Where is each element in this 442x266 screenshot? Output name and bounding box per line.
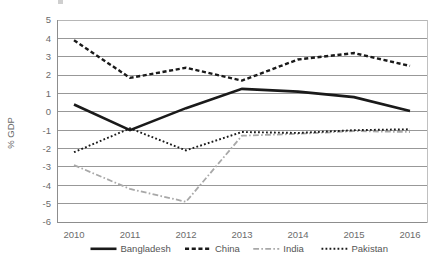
x-tick-label: 2012 xyxy=(175,229,196,240)
y-axis-tick-labels: 543210-1-2-3-4-5-6 xyxy=(43,14,51,227)
cropped-title-remnant xyxy=(58,0,63,4)
y-tick-label: -4 xyxy=(43,180,51,191)
data-series-group xyxy=(74,40,410,202)
legend-label-bangladesh: Bangladesh xyxy=(121,243,171,254)
series-line-china xyxy=(74,40,410,80)
legend-label-china: China xyxy=(215,243,241,254)
x-tick-label: 2010 xyxy=(63,229,84,240)
chart-container: 543210-1-2-3-4-5-6 201020112012201320142… xyxy=(0,0,442,266)
series-line-bangladesh xyxy=(74,89,410,130)
y-tick-label: 3 xyxy=(46,51,51,62)
x-axis-tick-labels: 2010201120122013201420152016 xyxy=(63,229,420,240)
x-tick-label: 2011 xyxy=(120,229,140,240)
y-tick-label: 0 xyxy=(46,106,51,117)
legend-label-pakistan: Pakistan xyxy=(352,243,388,254)
line-chart: 543210-1-2-3-4-5-6 201020112012201320142… xyxy=(0,0,442,266)
x-tick-label: 2015 xyxy=(343,229,364,240)
chart-legend: BangladeshChinaIndiaPakistan xyxy=(91,243,388,254)
y-tick-label: 1 xyxy=(46,88,51,99)
x-tick-label: 2013 xyxy=(231,229,252,240)
series-line-india xyxy=(74,131,410,202)
y-tick-label: -5 xyxy=(43,198,51,209)
y-tick-label: -3 xyxy=(43,161,51,172)
y-tick-label: 5 xyxy=(46,14,51,25)
y-axis-title: % GDP xyxy=(5,117,16,149)
y-tick-label: -1 xyxy=(43,125,51,136)
x-tick-label: 2016 xyxy=(399,229,420,240)
y-tick-label: -6 xyxy=(43,216,51,227)
legend-label-india: India xyxy=(283,243,304,254)
y-tick-label: 2 xyxy=(46,69,51,80)
y-tick-label: -2 xyxy=(43,143,51,154)
y-tick-label: 4 xyxy=(46,33,51,44)
x-tick-label: 2014 xyxy=(287,229,308,240)
